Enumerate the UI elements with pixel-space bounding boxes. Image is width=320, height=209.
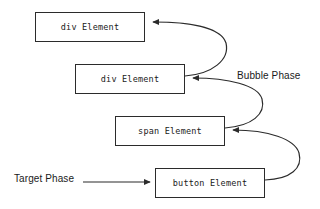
node-label: span Element	[138, 127, 202, 136]
node-label: button Element	[173, 179, 247, 188]
node-label: div Element	[61, 23, 120, 32]
label-target-phase: Target Phase	[14, 174, 74, 184]
node-div-element-inner[interactable]: div Element	[75, 64, 185, 94]
label-bubble-phase: Bubble Phase	[237, 71, 300, 81]
node-span-element[interactable]: span Element	[115, 116, 225, 146]
node-div-element-outer[interactable]: div Element	[35, 12, 145, 42]
event-propagation-diagram: div Element div Element span Element but…	[0, 0, 320, 209]
node-label: div Element	[101, 75, 160, 84]
node-button-element[interactable]: button Element	[155, 168, 265, 198]
